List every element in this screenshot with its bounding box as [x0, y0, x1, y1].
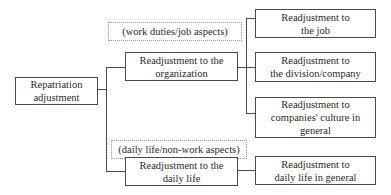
box-readjustment-daily-life-general: Readjustment to daily life in general: [255, 156, 376, 185]
connector-to-organization: [106, 67, 125, 68]
note-work-duties-label: (work duties/job aspects): [122, 26, 228, 38]
daily-life-general-label: Readjustment to daily life in general: [275, 158, 357, 184]
root-label: Repatriation adjustment: [31, 78, 83, 104]
box-readjustment-job: Readjustment to the job: [255, 9, 376, 38]
box-readjustment-organization: Readjustment to the organization: [125, 52, 238, 81]
connector-trunk-left: [106, 67, 107, 172]
daily-life-label: Readjustment to the daily life: [140, 159, 224, 185]
division-company-label: Readjustment to the division/company: [270, 54, 361, 80]
connector-to-culture: [246, 113, 255, 114]
connector-to-daily-general: [237, 170, 255, 171]
organization-label: Readjustment to the organization: [140, 54, 224, 80]
connector-to-daily-life: [106, 171, 125, 172]
box-readjustment-daily-life: Readjustment to the daily life: [125, 157, 238, 186]
note-daily-life-label: (daily life/non-work aspects): [118, 144, 239, 156]
root-box-repatriation-adjustment: Repatriation adjustment: [15, 77, 98, 105]
note-work-duties: (work duties/job aspects): [108, 22, 242, 41]
connector-to-division: [246, 67, 255, 68]
box-readjustment-companies-culture: Readjustment to companies' culture in ge…: [255, 97, 376, 138]
connector-to-job: [246, 18, 255, 19]
box-readjustment-division-company: Readjustment to the division/company: [255, 52, 376, 82]
job-label: Readjustment to the job: [281, 11, 350, 37]
connector-trunk-right: [246, 18, 247, 114]
companies-culture-label: Readjustment to companies' culture in ge…: [271, 98, 360, 137]
